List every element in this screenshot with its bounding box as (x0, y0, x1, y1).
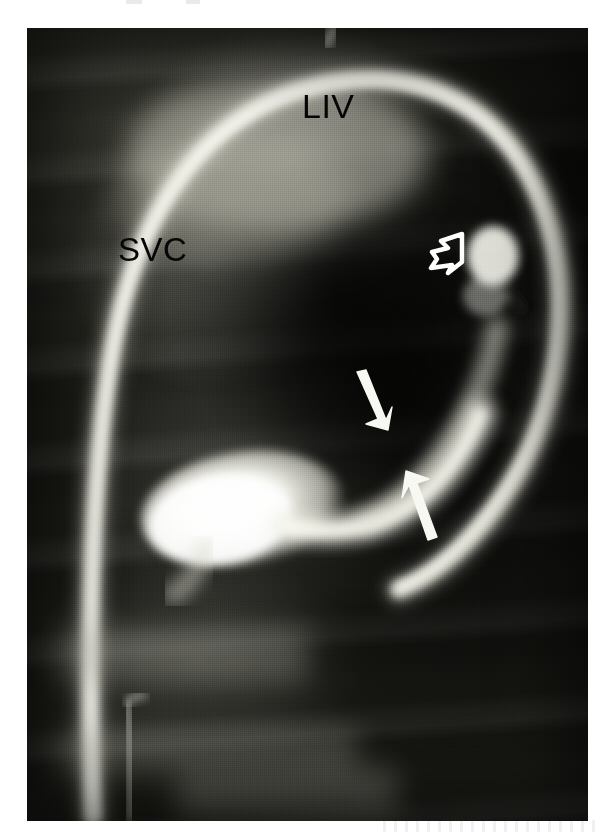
page-artifact-bottom (383, 820, 603, 832)
radiograph-image: LIV SVC (27, 28, 588, 821)
figure-root: LIV SVC (0, 0, 608, 839)
label-liv: LIV (302, 89, 355, 123)
film-grain (27, 28, 588, 821)
page-artifact-top-right (186, 0, 200, 4)
label-svc: SVC (118, 233, 187, 266)
page-artifact-top-left (126, 0, 142, 4)
